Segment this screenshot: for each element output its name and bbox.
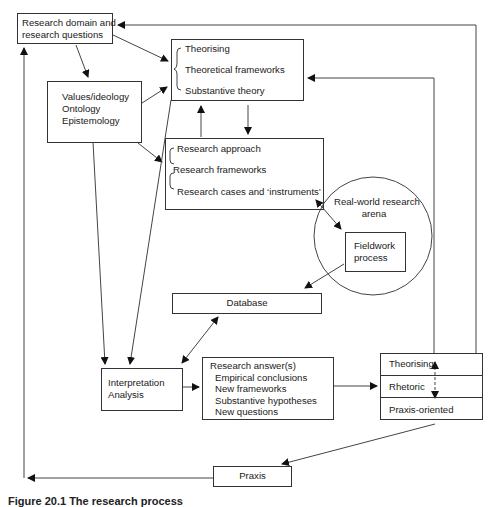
research-answers-box: Research answer(s) Empirical conclusions… (202, 357, 334, 420)
fieldwork-line2: process (354, 252, 388, 264)
output-theorising-label: Theorising (389, 358, 434, 370)
values-line2: Ontology (62, 103, 100, 115)
output-row-rhetoric: Rhetoric (381, 376, 482, 398)
arena-label-line1: Real-world research (334, 196, 414, 208)
theory-line3: Substantive theory (185, 85, 264, 97)
theory-line1: Theorising (185, 43, 230, 55)
answers-item: New questions (215, 406, 278, 418)
values-line1: Values/ideology (62, 91, 129, 103)
database-box: Database (172, 293, 322, 314)
arena-label-line2: arena (334, 208, 414, 220)
research-domain-box: Research domain and research questions (17, 13, 113, 44)
interpretation-box: Interpretation Analysis (101, 368, 183, 411)
theory-box: Theorising Theoretical frameworks Substa… (171, 39, 304, 101)
fieldwork-box: Fieldwork process (345, 232, 406, 272)
praxis-box: Praxis (213, 466, 292, 487)
approach-line2: Research frameworks (173, 164, 266, 176)
database-label: Database (173, 294, 321, 309)
research-domain-line1: Research domain and (22, 17, 116, 29)
output-row-theorising: Theorising (381, 354, 482, 376)
answers-item: Substantive hypotheses (215, 395, 317, 407)
answers-item: New frameworks (215, 383, 286, 395)
answers-title: Research answer(s) (210, 360, 296, 372)
output-rhetoric-label: Rhetoric (389, 381, 425, 393)
interpretation-line1: Interpretation (108, 377, 165, 389)
approach-box: Research approach Research frameworks Re… (165, 138, 324, 210)
approach-line3: Research cases and ‘instruments’ (177, 186, 321, 198)
output-praxis-oriented-label: Praxis-oriented (389, 404, 454, 416)
praxis-label: Praxis (214, 467, 291, 482)
values-box: Values/ideology Ontology Epistemology (47, 81, 142, 143)
fieldwork-line1: Fieldwork (354, 240, 395, 252)
theory-line2: Theoretical frameworks (185, 64, 285, 76)
output-row-praxis-oriented: Praxis-oriented (381, 398, 482, 420)
interpretation-line2: Analysis (108, 389, 144, 401)
outputs-box: Theorising Rhetoric Praxis-oriented (380, 353, 483, 420)
approach-line1: Research approach (177, 143, 261, 155)
figure-caption: Figure 20.1 The research process (8, 495, 183, 507)
answers-item: Empirical conclusions (215, 372, 307, 384)
values-line3: Epistemology (62, 115, 120, 127)
research-domain-line2: research questions (22, 29, 103, 41)
